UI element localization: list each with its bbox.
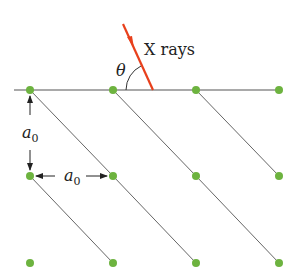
x-rays-label: X rays [144,40,195,59]
vertical-spacing-label: a0 [22,123,39,145]
theta-label: θ [116,61,126,80]
horizontal-spacing-label: a0 [64,166,81,188]
angle-arc [126,66,141,90]
diagram-svg: X rays θ a0 a0 [0,0,301,278]
diffraction-diagram: X rays θ a0 a0 [0,0,301,278]
x-ray-arrowhead-icon [127,36,134,48]
